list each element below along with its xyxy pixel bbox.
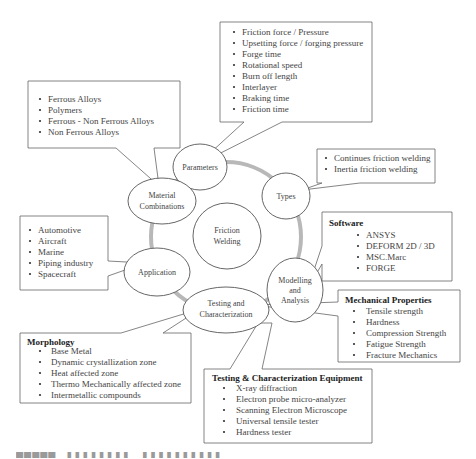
svg-text:Piping industry: Piping industry — [38, 258, 94, 268]
svg-text:Characterization: Characterization — [200, 310, 253, 319]
svg-text:Universal tensile tester: Universal tensile tester — [236, 416, 318, 426]
node-center-friction-welding: Friction Welding — [193, 203, 261, 269]
svg-text:Material: Material — [148, 191, 176, 200]
svg-text:Testing and: Testing and — [208, 299, 245, 308]
svg-text:X-ray diffraction: X-ray diffraction — [236, 383, 298, 393]
svg-text:Inertia friction welding: Inertia friction welding — [334, 164, 418, 174]
svg-text:Mechanical Properties: Mechanical Properties — [345, 295, 432, 305]
node-testing-and-characterization: Testing and Characterization — [183, 287, 269, 333]
svg-text:DEFORM 2D / 3D: DEFORM 2D / 3D — [366, 241, 435, 251]
svg-text:Testing & Characterization Equ: Testing & Characterization Equipment — [212, 373, 362, 383]
node-modelling-and-analysis: Modelling and Analysis — [267, 258, 323, 322]
svg-text:Hardness tester: Hardness tester — [236, 427, 291, 437]
svg-text:Friction force / Pressure: Friction force / Pressure — [242, 27, 329, 37]
node-types: Types — [262, 173, 310, 219]
svg-text:Spacecraft: Spacecraft — [38, 269, 76, 279]
svg-text:Intermetallic compounds: Intermetallic compounds — [51, 390, 141, 400]
svg-text:Friction time: Friction time — [242, 104, 289, 114]
friction-welding-mind-map: Friction Welding Parameters Types Modell… — [0, 0, 476, 459]
svg-text:Continues friction welding: Continues friction welding — [334, 153, 431, 163]
cropped-caption: █████ ▌▌▌▌▌▌▌▌ ▌▌▌▌▌▌▌▌▌▌ — [16, 452, 236, 459]
svg-text:Non Ferrous Alloys: Non Ferrous Alloys — [48, 127, 120, 137]
svg-text:ANSYS: ANSYS — [366, 230, 396, 240]
svg-text:Marine: Marine — [38, 247, 64, 257]
svg-text:Aircraft: Aircraft — [38, 236, 67, 246]
svg-text:Analysis: Analysis — [281, 296, 309, 305]
svg-text:and: and — [289, 286, 301, 295]
svg-text:Rotational speed: Rotational speed — [242, 60, 303, 70]
svg-text:Welding: Welding — [214, 237, 241, 246]
svg-text:Friction: Friction — [214, 226, 239, 235]
svg-text:Combinations: Combinations — [140, 202, 185, 211]
svg-text:Ferrous Alloys: Ferrous Alloys — [48, 94, 102, 104]
svg-text:Parameters: Parameters — [182, 163, 218, 172]
svg-text:Automotive: Automotive — [38, 225, 81, 235]
svg-text:Burn off length: Burn off length — [242, 71, 298, 81]
svg-text:Compression Strength: Compression Strength — [366, 328, 447, 338]
svg-text:Heat affected zone: Heat affected zone — [51, 368, 118, 378]
svg-text:Interlayer: Interlayer — [242, 82, 277, 92]
svg-text:Upsetting force / forging pres: Upsetting force / forging pressure — [242, 38, 363, 48]
svg-text:Software: Software — [329, 218, 363, 228]
list-software: Software — [329, 218, 363, 228]
svg-text:MSC.Marc: MSC.Marc — [366, 252, 406, 262]
svg-text:Polymers: Polymers — [48, 105, 82, 115]
svg-text:FORGE: FORGE — [366, 263, 396, 273]
svg-text:Types: Types — [277, 192, 296, 201]
node-material-combinations: Material Combinations — [128, 178, 196, 224]
svg-text:Base Metal: Base Metal — [51, 346, 92, 356]
svg-text:Scanning Electron Microscope: Scanning Electron Microscope — [236, 405, 347, 415]
svg-text:Hardness: Hardness — [366, 317, 400, 327]
svg-text:Tensile strength: Tensile strength — [366, 306, 424, 316]
svg-text:Thermo Mechanically affected z: Thermo Mechanically affected zone — [51, 379, 181, 389]
svg-text:Forge time: Forge time — [242, 49, 281, 59]
svg-text:Dynamic crystallization zone: Dynamic crystallization zone — [51, 357, 156, 367]
svg-text:Electron probe micro-analyzer: Electron probe micro-analyzer — [236, 394, 346, 404]
svg-text:Braking time: Braking time — [242, 93, 289, 103]
svg-text:Ferrous - Non Ferrous Alloys: Ferrous - Non Ferrous Alloys — [48, 116, 154, 126]
svg-text:Application: Application — [138, 268, 176, 277]
svg-text:Fatigue Strength: Fatigue Strength — [366, 339, 426, 349]
svg-text:Modelling: Modelling — [278, 276, 311, 285]
list-types: Continues friction welding Inertia frict… — [325, 153, 431, 174]
svg-text:Fracture Mechanics: Fracture Mechanics — [366, 350, 438, 360]
node-application: Application — [124, 248, 190, 296]
